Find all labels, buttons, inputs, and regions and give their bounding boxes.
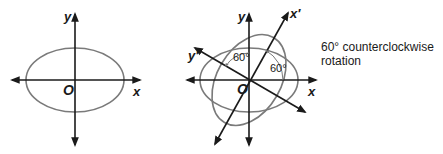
angle-label-1: 60° — [233, 51, 250, 63]
diagram-canvas: y x O y x x′ y′ O 60° 60° — [0, 0, 443, 154]
y-axis-label: y — [63, 9, 72, 24]
rotation-caption: 60° counterclockwise rotation — [321, 40, 441, 68]
origin-label: O — [237, 81, 248, 97]
caption-line-2: rotation — [321, 54, 441, 68]
left-diagram: y x O — [12, 9, 141, 145]
x-axis-label: x — [132, 84, 141, 99]
y-prime-axis-label: y′ — [187, 48, 199, 63]
x-prime-axis — [215, 13, 288, 144]
x-prime-axis-label: x′ — [289, 6, 301, 21]
origin-label: O — [63, 82, 74, 98]
right-diagram: y x x′ y′ O 60° 60° — [187, 6, 316, 145]
angle-label-2: 60° — [270, 62, 287, 74]
x-axis-label: x — [307, 84, 316, 99]
y-axis-label: y — [237, 9, 246, 24]
caption-line-1: 60° counterclockwise — [321, 40, 441, 54]
